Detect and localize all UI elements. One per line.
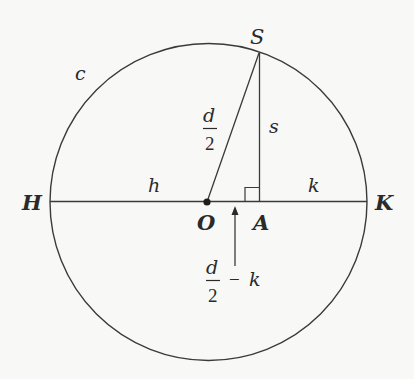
label-offset-numerator: d xyxy=(206,256,218,278)
label-point-k: K xyxy=(374,190,394,215)
label-point-a: A xyxy=(251,210,269,235)
label-c: c xyxy=(75,62,86,84)
label-radius-denominator: 2 xyxy=(205,133,215,154)
label-offset-denominator: 2 xyxy=(208,285,218,306)
right-angle-marker xyxy=(245,188,260,202)
label-s: s xyxy=(269,115,279,137)
label-point-h: H xyxy=(21,190,43,215)
label-radius-numerator: d xyxy=(203,104,215,126)
arrow-head-icon xyxy=(232,206,239,215)
label-point-o: O xyxy=(197,210,216,235)
label-h: h xyxy=(148,174,160,196)
radius-os xyxy=(207,53,259,202)
label-offset-minus: − xyxy=(229,269,240,290)
label-point-s: S xyxy=(250,25,264,49)
label-k: k xyxy=(308,174,320,196)
diagram-svg: c S H K O A h k s d 2 d 2 − k xyxy=(0,0,414,379)
circle-diagram: c S H K O A h k s d 2 d 2 − k xyxy=(0,0,414,379)
label-offset-k: k xyxy=(249,268,261,290)
center-point-o xyxy=(203,198,210,205)
